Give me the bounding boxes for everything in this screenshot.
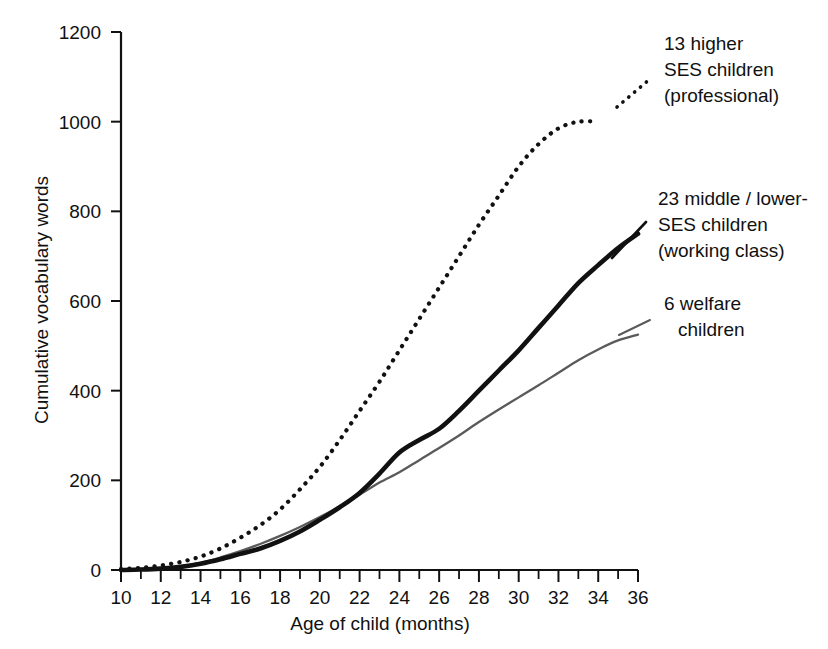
- y-tick-label-1200: 1200: [59, 22, 101, 43]
- y-tick-label-800: 800: [69, 201, 101, 222]
- annotation-working-class-line-1: 23 middle / lower-: [658, 188, 808, 209]
- y-tick-label-200: 200: [69, 470, 101, 491]
- x-tick-label-34: 34: [588, 587, 610, 608]
- x-tick-label-32: 32: [548, 587, 569, 608]
- x-tick-label-16: 16: [230, 587, 251, 608]
- x-tick-label-36: 36: [627, 587, 648, 608]
- x-tick-label-12: 12: [150, 587, 171, 608]
- x-tick-label-28: 28: [468, 587, 489, 608]
- x-tick-label-24: 24: [389, 587, 411, 608]
- y-tick-label-400: 400: [69, 381, 101, 402]
- annotation-welfare-line-2: children: [678, 319, 745, 340]
- y-axis-title: Cumulative vocabulary words: [31, 176, 52, 424]
- x-axis-title: Age of child (months): [290, 613, 470, 634]
- annotation-professional-line-2: SES children: [664, 59, 774, 80]
- x-tick-label-20: 20: [309, 587, 330, 608]
- x-tick-label-18: 18: [270, 587, 291, 608]
- y-tick-label-0: 0: [90, 560, 101, 581]
- x-tick-label-22: 22: [349, 587, 370, 608]
- y-tick-label-600: 600: [69, 291, 101, 312]
- x-tick-label-30: 30: [508, 587, 529, 608]
- chart-svg: 020040060080010001200 Cumulative vocabul…: [0, 0, 828, 649]
- annotation-welfare-line-1: 6 welfare: [664, 293, 741, 314]
- annotation-working-class-line-2: SES children: [658, 214, 768, 235]
- annotation-professional-line-1: 13 higher: [664, 33, 744, 54]
- annotation-working-class-line-3: (working class): [658, 240, 785, 261]
- x-tick-label-14: 14: [190, 587, 212, 608]
- x-tick-label-26: 26: [429, 587, 450, 608]
- x-tick-label-10: 10: [110, 587, 131, 608]
- annotation-professional-line-3: (professional): [664, 85, 779, 106]
- vocabulary-growth-chart: 020040060080010001200 Cumulative vocabul…: [0, 0, 828, 649]
- y-tick-label-1000: 1000: [59, 112, 101, 133]
